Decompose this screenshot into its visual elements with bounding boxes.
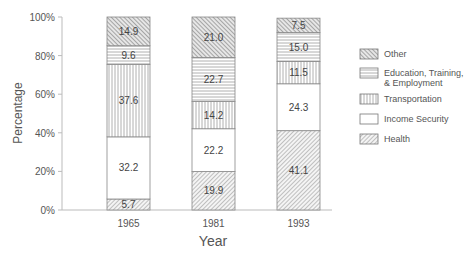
bar-1993: 41.124.311.515.07.5 (277, 18, 320, 210)
legend-item-health: Health (360, 134, 410, 144)
y-axis-label: Percentage (11, 82, 25, 144)
bar-value-label: 41.1 (289, 165, 309, 176)
bar-value-label: 5.7 (122, 199, 136, 210)
legend: Other Education, Training, & Employment … (360, 49, 464, 144)
y-tick-label: 80% (35, 51, 55, 62)
legend-label: & Employment (384, 78, 443, 88)
bar-value-label: 15.0 (289, 42, 309, 53)
legend-label: Transportation (384, 94, 442, 104)
bar-value-label: 7.5 (292, 20, 306, 31)
bar-value-label: 22.7 (204, 74, 224, 85)
bar-value-label: 19.9 (204, 185, 224, 196)
legend-item-education: Education, Training, & Employment (360, 68, 464, 88)
y-tick-label: 0% (41, 205, 56, 216)
bars-group: 5.732.237.69.614.919.922.214.222.721.041… (107, 17, 320, 210)
legend-label: Education, Training, (384, 68, 464, 78)
legend-label: Health (384, 134, 410, 144)
bar-value-label: 14.2 (204, 110, 224, 121)
bar-value-label: 24.3 (289, 102, 309, 113)
x-tick-label: 1981 (202, 218, 225, 229)
stacked-bar-chart: 0%20%40%60%80%100% Percentage 5.732.237.… (0, 0, 466, 256)
legend-label: Income Security (384, 114, 449, 124)
y-axis: 0%20%40%60%80%100% (29, 12, 62, 216)
x-axis-label: Year (199, 233, 228, 249)
bar-1981: 19.922.214.222.721.0 (192, 17, 235, 210)
legend-item-transportation: Transportation (360, 94, 442, 104)
x-tick-label: 1993 (287, 218, 310, 229)
bar-value-label: 32.2 (119, 162, 139, 173)
legend-item-other: Other (360, 49, 407, 59)
y-tick-label: 40% (35, 128, 55, 139)
y-tick-label: 20% (35, 166, 55, 177)
bar-value-label: 21.0 (204, 32, 224, 43)
legend-label: Other (384, 49, 407, 59)
bar-value-label: 14.9 (119, 26, 139, 37)
bar-value-label: 9.6 (122, 50, 136, 61)
legend-item-income-security: Income Security (360, 114, 449, 124)
bar-value-label: 11.5 (289, 67, 308, 78)
y-tick-label: 100% (29, 12, 55, 23)
x-axis-ticks: 196519811993 (117, 218, 310, 229)
bar-value-label: 22.2 (204, 145, 224, 156)
x-tick-label: 1965 (117, 218, 140, 229)
y-tick-label: 60% (35, 89, 55, 100)
bar-value-label: 37.6 (119, 95, 139, 106)
bar-1965: 5.732.237.69.614.9 (107, 17, 150, 210)
